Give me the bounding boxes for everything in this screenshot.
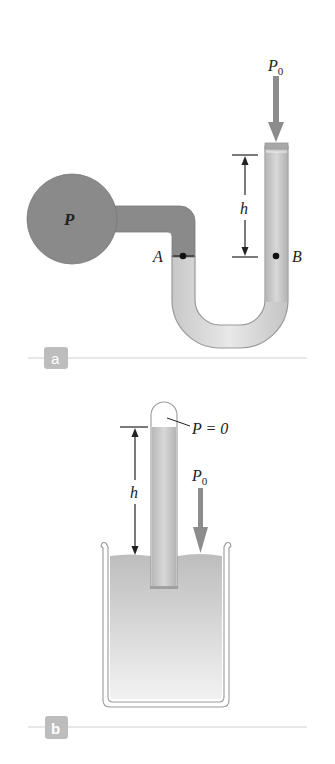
right-tube-cap	[265, 143, 288, 149]
label-vacuum: P = 0	[191, 420, 228, 437]
panel-b-tag-text: b	[51, 720, 60, 737]
panel-b: P = 0 h P0 b	[28, 402, 307, 739]
gas-container	[27, 174, 195, 264]
point-b-marker	[273, 253, 280, 260]
label-p0-b: P0	[191, 467, 208, 487]
label-height-b: h	[130, 484, 138, 501]
panel-a: P P0 h A B a	[27, 57, 307, 369]
label-p0-a: P0	[267, 57, 284, 77]
label-height-a: h	[240, 200, 248, 217]
label-point-a: A	[152, 248, 163, 265]
label-point-b: B	[292, 248, 302, 265]
barometer-tube	[150, 402, 178, 589]
atmospheric-pressure-arrow-a	[268, 76, 284, 142]
right-column-liquid	[266, 152, 287, 302]
atmospheric-pressure-arrow-b	[193, 488, 208, 553]
manometer-diagram: P P0 h A B a P = 0 h	[0, 0, 335, 764]
label-container-pressure: P	[63, 210, 75, 229]
panel-a-tag-text: a	[51, 350, 60, 367]
